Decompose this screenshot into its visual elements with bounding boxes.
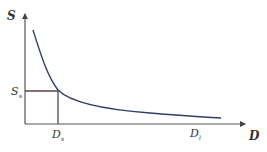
d-l-subscript: l (199, 134, 201, 141)
d-s-subscript: s (61, 135, 64, 142)
s-s-label: S (11, 85, 19, 98)
d-l-label: D (189, 127, 199, 140)
x-axis-label: D (248, 129, 260, 143)
s-s-subscript: s (19, 92, 22, 99)
d-s-label: D (51, 128, 61, 141)
demand-curve (33, 30, 221, 118)
supply-demand-curve-chart: S D S s D s D l (0, 0, 267, 152)
y-axis-label: S (7, 9, 16, 23)
